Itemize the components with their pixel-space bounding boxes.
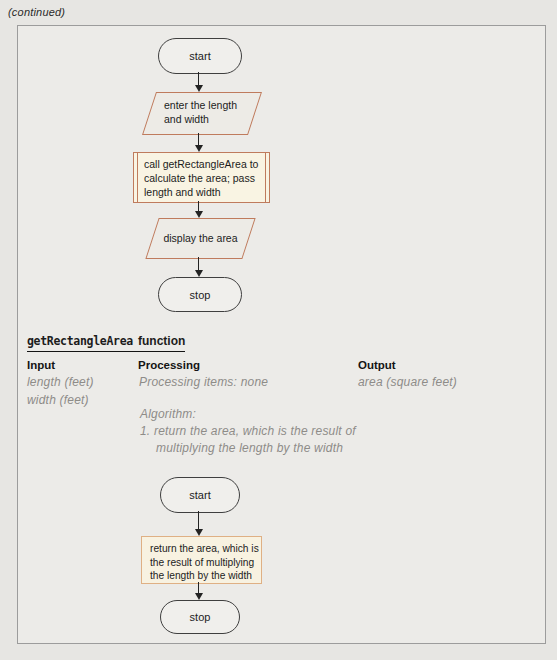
flow-arrow-head [195,211,203,218]
ipo-algorithm-step-line: multiplying the length by the width [156,441,343,455]
flow-arrow-stem [198,72,199,85]
ipo-processing-header: Processing [138,359,200,371]
flow-arrow-stem [198,133,199,145]
ipo-input-item: width (feet) [27,393,89,407]
ipo-algorithm-label: Algorithm: [140,407,196,421]
flow-arrow-head [195,145,203,152]
call-predefined-process-label: call getRectangleArea to calculate the a… [134,153,269,202]
function-heading-word: function [138,334,185,348]
flow-arrow-stem [198,582,199,593]
flowchart-stop-terminal: stop [158,277,242,312]
ipo-input-header: Input [27,359,55,371]
call-predefined-process: call getRectangleArea to calculate the a… [133,152,270,203]
flowchart-start-terminal: start [158,38,242,74]
flow-arrow-stem [198,511,199,529]
return-process-box: return the area, which is the result of … [141,536,262,584]
display-parallelogram-label: display the area [153,219,248,258]
function-section-heading: getRectangleAreafunction [27,331,185,352]
flow-arrow-stem [198,201,199,211]
input-parallelogram-label: enter the length and width [150,93,248,134]
flow-arrow-head [195,529,203,536]
function-flowchart-start-terminal: start [160,477,240,513]
ipo-input-item: length (feet) [27,375,94,389]
display-parallelogram: display the area [145,218,255,259]
ipo-output-item: area (square feet) [358,375,457,389]
flow-arrow-stem [198,257,199,270]
input-parallelogram: enter the length and width [142,92,262,135]
function-name-code: getRectangleArea [27,334,133,348]
ipo-algorithm-step-line: 1. return the area, which is the result … [140,424,356,438]
return-process-label: return the area, which is the result of … [142,537,262,583]
continued-label: (continued) [8,6,65,18]
ipo-output-header: Output [358,359,396,371]
flow-arrow-head [195,85,203,92]
ipo-processing-items-line: Processing items: none [139,375,268,389]
flow-arrow-head [195,270,203,277]
flow-arrow-head [195,593,203,600]
function-flowchart-stop-terminal: stop [160,600,240,634]
